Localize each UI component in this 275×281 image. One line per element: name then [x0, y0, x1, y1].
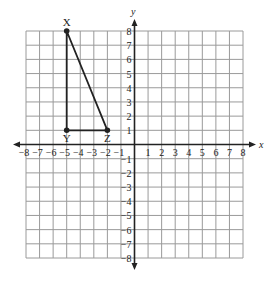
y-axis-up-arrow-icon: [132, 19, 138, 26]
x-tick-label: 7: [227, 147, 232, 158]
y-tick-label: −8: [121, 253, 132, 264]
triangle-outline: [67, 31, 108, 130]
triangle-xyz: [67, 31, 108, 130]
y-tick-label: 7: [127, 40, 132, 51]
x-tick-label: −8: [19, 147, 30, 158]
y-axis-label: y: [130, 6, 136, 17]
x-tick-label: 3: [173, 147, 178, 158]
x-axis-right-arrow-icon: [249, 142, 256, 148]
x-tick-label: −7: [32, 147, 43, 158]
x-tick-label: −5: [59, 147, 70, 158]
x-tick-label: −4: [73, 147, 84, 158]
y-tick-label: 2: [127, 111, 132, 122]
x-tick-label: 4: [186, 147, 191, 158]
y-tick-label: −1: [121, 154, 132, 165]
y-tick-label: 6: [127, 54, 132, 65]
x-axis-label: x: [258, 139, 264, 150]
coordinate-plane: −8−7−6−5−4−3−2−112345678 87654321−1−2−3−…: [0, 0, 275, 281]
x-axis-tick-labels: −8−7−6−5−4−3−2−112345678: [19, 147, 246, 158]
y-tick-label: −7: [121, 239, 132, 250]
y-tick-label: −4: [121, 196, 132, 207]
x-tick-label: 8: [241, 147, 246, 158]
y-tick-label: 8: [127, 26, 132, 37]
x-tick-label: 6: [213, 147, 218, 158]
y-tick-label: 4: [127, 83, 132, 94]
y-axis-down-arrow-icon: [132, 263, 138, 270]
vertex-y-label: Y: [63, 132, 71, 144]
y-tick-label: −3: [121, 182, 132, 193]
x-tick-label: −3: [86, 147, 97, 158]
x-tick-label: 1: [146, 147, 151, 158]
x-tick-label: 2: [159, 147, 164, 158]
y-tick-label: −5: [121, 210, 132, 221]
vertex-x-label: X: [63, 16, 71, 28]
x-tick-label: 5: [200, 147, 205, 158]
y-tick-label: 1: [127, 125, 132, 136]
y-tick-label: −2: [121, 168, 132, 179]
coordinate-plane-figure: −8−7−6−5−4−3−2−112345678 87654321−1−2−3−…: [0, 0, 275, 281]
vertex-x-dot: [64, 28, 70, 34]
y-tick-label: 5: [127, 69, 132, 80]
y-tick-label: −6: [121, 225, 132, 236]
vertex-z-label: Z: [104, 132, 111, 144]
x-tick-label: −6: [46, 147, 57, 158]
x-tick-label: −2: [100, 147, 111, 158]
y-tick-label: 3: [127, 97, 132, 108]
axes: [13, 19, 256, 270]
